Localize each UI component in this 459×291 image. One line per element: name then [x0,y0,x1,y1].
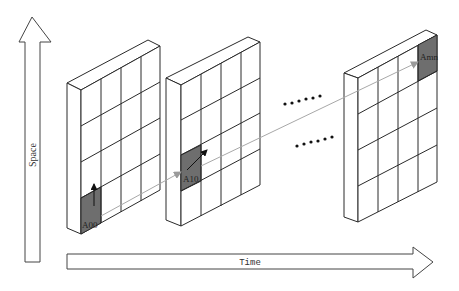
matrix-first: A00 [67,40,160,234]
label-amn: Amn [420,52,439,62]
ellipsis-bottom [295,135,333,147]
space-axis-label: Space [27,143,38,167]
space-time-diagram: Space Time A00 [0,0,459,291]
matrix-second: A10 [166,37,260,226]
matrix-last: Amn [344,30,439,222]
time-axis-arrow: Time [67,247,433,278]
ellipsis-top [283,94,321,105]
time-axis-label: Time [239,258,261,268]
label-a00: A00 [82,220,98,230]
space-axis-arrow: Space [19,17,51,262]
label-a10: A10 [183,174,199,184]
